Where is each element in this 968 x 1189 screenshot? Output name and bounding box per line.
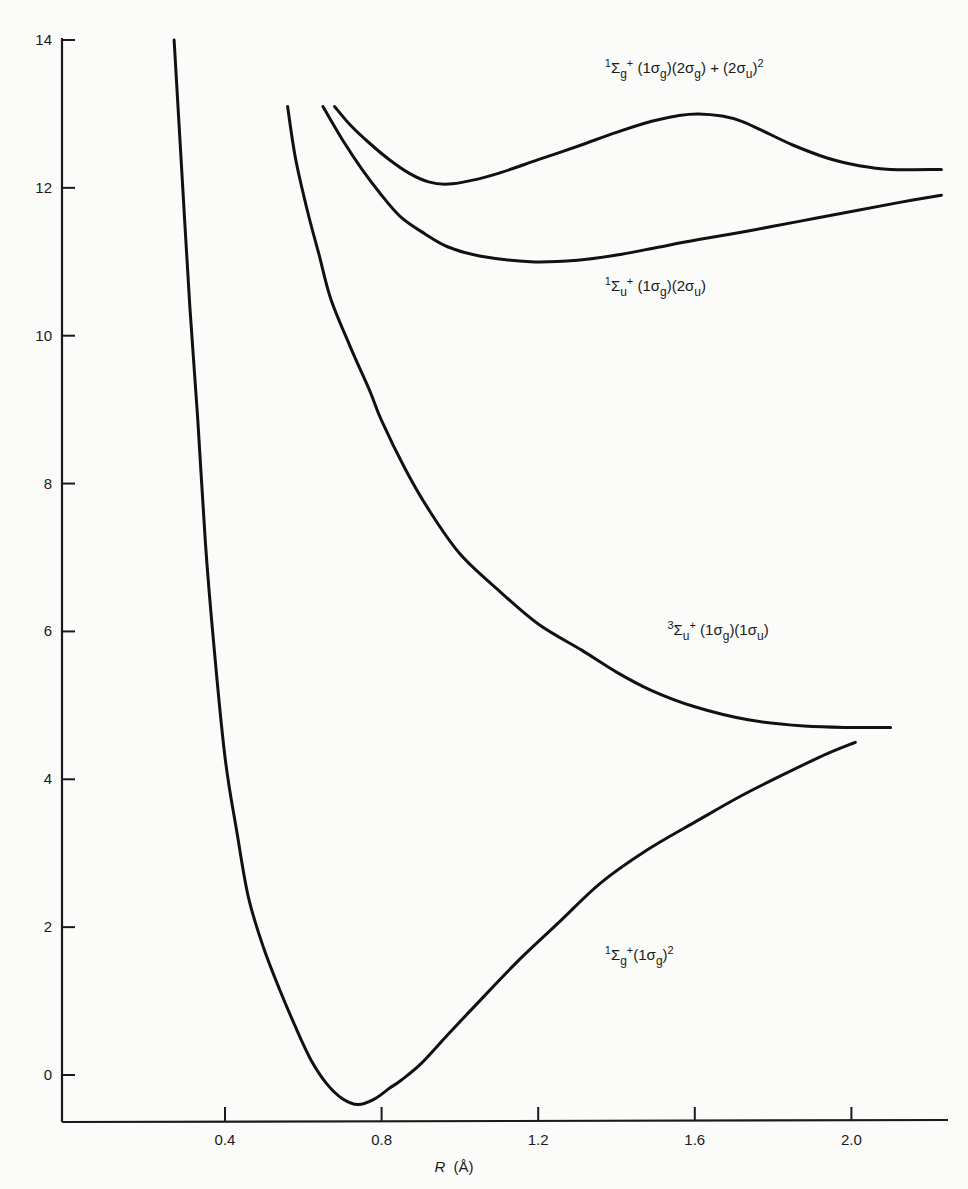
label-text: Σ [611,59,620,76]
y-tick-label: 4 [44,770,52,787]
label-subscript: u [620,285,627,299]
y-tick-label: 0 [44,1066,52,1083]
x-axis-label-variable: R [434,1158,445,1175]
label-subscript: g [620,67,627,81]
label-subscript: u [694,285,701,299]
label-text: )(2σ [667,59,695,76]
label-subscript: g [660,285,667,299]
label-superscript: 2 [668,944,674,956]
y-tick-label: 10 [35,327,52,344]
label-text: (1σ [633,59,661,76]
curve-1sigma-u-excited [323,107,942,263]
label-superscript: 2 [757,57,763,69]
state-label: 1Σg+ (1σg)(2σg) + (2σu)2 [605,57,764,81]
curve-3sigma-u-triplet [288,107,891,728]
y-ticks: 02468101214 [35,31,75,1083]
label-text: (1σ [633,946,656,963]
label-text: Σ [674,621,683,638]
y-tick-label: 2 [44,918,52,935]
label-subscript: g [694,67,701,81]
x-axis-label: R (Å) [434,1158,473,1175]
label-text: )(2σ [667,277,695,294]
x-tick-label: 1.6 [684,1131,705,1148]
y-tick-label: 12 [35,179,52,196]
curve-1sigma-g-doubly-excited [335,107,942,185]
x-ticks: 0.40.81.21.62.0 [215,1107,862,1148]
curves [174,40,941,1105]
x-tick-label: 2.0 [841,1131,862,1148]
curve-labels: 1Σg+ (1σg)(2σg) + (2σu)21Σu+ (1σg)(2σu)3… [605,57,769,968]
label-text: Σ [611,277,620,294]
label-subscript: g [660,67,667,81]
label-subscript: g [656,954,663,968]
label-text: ) + (2σ [701,59,746,76]
state-label: 1Σg+(1σg)2 [605,944,674,968]
x-tick-label: 0.4 [215,1131,236,1148]
state-label: 3Σu+ (1σg)(1σu) [667,619,768,643]
x-axis-label-unit: (Å) [454,1158,474,1175]
label-text: )(1σ [729,621,757,638]
label-text: ) [701,277,706,294]
label-text: Σ [611,946,620,963]
label-text: ) [764,621,769,638]
label-subscript: g [620,954,627,968]
label-subscript: u [683,629,690,643]
x-tick-label: 1.2 [528,1131,549,1148]
y-tick-label: 14 [35,31,52,48]
label-subscript: u [757,629,764,643]
state-label: 1Σu+ (1σg)(2σu) [605,275,706,299]
label-subscript: g [723,629,730,643]
y-tick-label: 6 [44,622,52,639]
label-subscript: u [746,67,753,81]
y-tick-label: 8 [44,475,52,492]
axes [62,38,948,1122]
x-tick-label: 0.8 [371,1131,392,1148]
potential-energy-chart: 02468101214 0.40.81.21.62.0 1Σg+ (1σg)(2… [0,0,968,1189]
curve-1sigma-g-ground [174,40,855,1105]
label-text: (1σ [633,277,661,294]
label-text: (1σ [696,621,724,638]
x-axis [62,1120,948,1122]
